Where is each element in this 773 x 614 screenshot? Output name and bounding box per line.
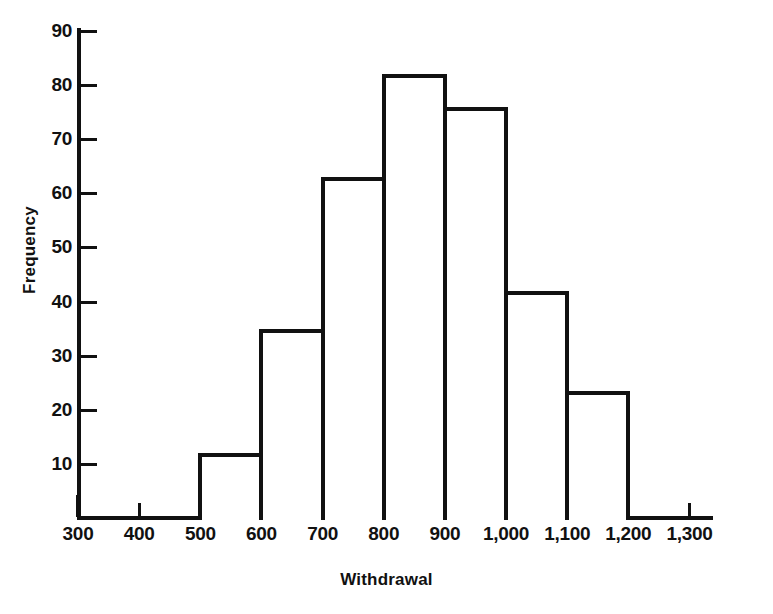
x-tick-mark — [76, 495, 80, 517]
histogram-bar — [443, 107, 508, 520]
y-tick-mark — [81, 192, 97, 195]
x-tick-mark — [138, 503, 141, 517]
y-tick-label: 20 — [32, 400, 72, 419]
y-tick-mark — [81, 301, 97, 304]
histogram-bar — [259, 329, 324, 520]
y-tick-label: 70 — [32, 129, 72, 148]
y-tick-mark — [81, 409, 97, 412]
y-tick-label: 90 — [32, 21, 72, 40]
histogram-bar — [382, 74, 447, 520]
histogram-bar — [321, 177, 386, 520]
y-tick-mark — [81, 30, 97, 33]
y-tick-label: 30 — [32, 346, 72, 365]
y-tick-label: 10 — [32, 454, 72, 473]
y-axis-title: Frequency — [20, 180, 40, 320]
y-tick-mark — [81, 138, 97, 141]
y-tick-mark — [81, 463, 97, 466]
histogram-figure: 102030405060708090 300400500600700800900… — [0, 0, 773, 614]
histogram-bar — [198, 453, 263, 520]
y-axis-line — [77, 28, 81, 520]
histogram-bar — [565, 391, 630, 520]
x-tick-label: 1,300 — [645, 524, 735, 543]
y-tick-mark — [81, 355, 97, 358]
x-tick-mark — [688, 503, 691, 517]
y-tick-mark — [81, 246, 97, 249]
y-tick-mark — [81, 84, 97, 87]
x-axis-title: Withdrawal — [0, 570, 773, 590]
histogram-bar — [504, 291, 569, 520]
y-tick-label: 80 — [32, 75, 72, 94]
